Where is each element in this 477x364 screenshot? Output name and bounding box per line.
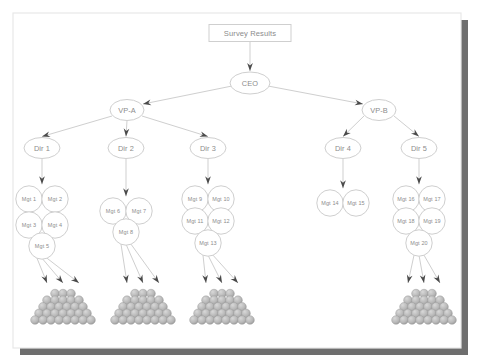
node-manager-mgt-6-label: Mgt 6 <box>106 208 120 214</box>
node-director-5-label: Dir 5 <box>411 144 427 153</box>
node-manager-mgt-14[interactable]: Mgt 14 <box>317 190 343 216</box>
pyramid-sphere <box>198 316 207 325</box>
node-ceo[interactable]: CEO <box>230 72 270 94</box>
pyramid-sphere <box>246 316 255 325</box>
node-vp-2[interactable]: VP-B <box>362 100 396 121</box>
pyramid-sphere <box>448 316 457 325</box>
pyramid-sphere <box>190 316 199 325</box>
pyramid-sphere <box>71 316 80 325</box>
node-manager-mgt-18-label: Mgt 18 <box>397 218 414 224</box>
node-manager-mgt-7-label: Mgt 7 <box>132 208 146 214</box>
pyramid-sphere <box>87 316 96 325</box>
pyramid-sphere <box>167 316 176 325</box>
node-manager-mgt-14-label: Mgt 14 <box>321 200 338 206</box>
node-manager-mgt-11-label: Mgt 11 <box>186 218 203 224</box>
survey-results-label: Survey Results <box>224 29 277 38</box>
node-manager-mgt-5[interactable]: Mgt 5 <box>29 233 55 259</box>
node-manager-mgt-4-label: Mgt 4 <box>48 222 62 228</box>
node-director-2-label: Dir 2 <box>118 144 134 153</box>
pyramid-sphere <box>214 316 223 325</box>
node-manager-mgt-17-label: Mgt 17 <box>423 196 440 202</box>
pyramid-sphere <box>111 316 120 325</box>
org-chart-svg: Survey ResultsCEOVP-AVP-BDir 1Dir 2Dir 3… <box>0 0 477 364</box>
pyramid-sphere <box>238 316 247 325</box>
node-manager-mgt-8[interactable]: Mgt 8 <box>113 219 139 245</box>
node-ceo-label: CEO <box>242 79 258 88</box>
pyramid-sphere <box>230 316 239 325</box>
pyramid-sphere <box>222 316 231 325</box>
node-manager-mgt-15[interactable]: Mgt 15 <box>343 190 369 216</box>
node-director-1-label: Dir 1 <box>34 144 50 153</box>
node-director-1[interactable]: Dir 1 <box>24 138 60 159</box>
node-manager-mgt-12-label: Mgt 12 <box>212 218 229 224</box>
pyramid-sphere <box>119 316 128 325</box>
pyramid-sphere <box>79 316 88 325</box>
pyramid-sphere <box>392 316 401 325</box>
pyramid-sphere <box>55 316 64 325</box>
pyramid-sphere <box>432 316 441 325</box>
node-manager-mgt-10-label: Mgt 10 <box>212 196 229 202</box>
pyramid-sphere <box>408 316 417 325</box>
pyramid-sphere <box>424 316 433 325</box>
node-vp-1-label: VP-A <box>118 106 136 115</box>
node-manager-mgt-5-label: Mgt 5 <box>35 243 49 249</box>
pyramid-sphere <box>151 316 160 325</box>
node-vp-1[interactable]: VP-A <box>110 100 144 121</box>
pyramid-sphere <box>400 316 409 325</box>
node-director-5[interactable]: Dir 5 <box>401 138 437 159</box>
node-director-2[interactable]: Dir 2 <box>108 138 144 159</box>
node-director-4-label: Dir 4 <box>335 144 351 153</box>
node-manager-mgt-20[interactable]: Mgt 20 <box>406 230 432 256</box>
diagram-canvas: Survey ResultsCEOVP-AVP-BDir 1Dir 2Dir 3… <box>0 0 477 364</box>
pyramid-sphere <box>206 316 215 325</box>
node-manager-mgt-3-label: Mgt 3 <box>22 222 36 228</box>
node-vp-2-label: VP-B <box>370 106 388 115</box>
pyramid-sphere <box>31 316 40 325</box>
node-manager-mgt-1-label: Mgt 1 <box>22 196 36 202</box>
pyramid-sphere <box>143 316 152 325</box>
pyramid-sphere <box>127 316 136 325</box>
node-manager-mgt-2[interactable]: Mgt 2 <box>42 186 68 212</box>
node-manager-mgt-9-label: Mgt 9 <box>188 196 202 202</box>
pyramid-sphere <box>63 316 72 325</box>
node-manager-mgt-13-label: Mgt 13 <box>199 240 216 246</box>
pyramid-sphere <box>135 316 144 325</box>
node-manager-mgt-13[interactable]: Mgt 13 <box>195 230 221 256</box>
node-manager-mgt-2-label: Mgt 2 <box>48 196 62 202</box>
pyramid-sphere <box>47 316 56 325</box>
node-manager-mgt-8-label: Mgt 8 <box>119 229 133 235</box>
pyramid-sphere <box>39 316 48 325</box>
pyramid-sphere <box>159 316 168 325</box>
node-manager-mgt-15-label: Mgt 15 <box>347 200 364 206</box>
survey-results-box[interactable]: Survey Results <box>209 25 291 42</box>
node-director-4[interactable]: Dir 4 <box>325 138 361 159</box>
pyramid-sphere <box>416 316 425 325</box>
node-manager-mgt-16-label: Mgt 16 <box>397 196 414 202</box>
node-manager-mgt-1[interactable]: Mgt 1 <box>16 186 42 212</box>
node-manager-mgt-20-label: Mgt 20 <box>410 240 427 246</box>
pyramid-sphere <box>440 316 449 325</box>
node-director-3-label: Dir 3 <box>200 144 216 153</box>
node-director-3[interactable]: Dir 3 <box>190 138 226 159</box>
node-manager-mgt-19-label: Mgt 19 <box>423 218 440 224</box>
